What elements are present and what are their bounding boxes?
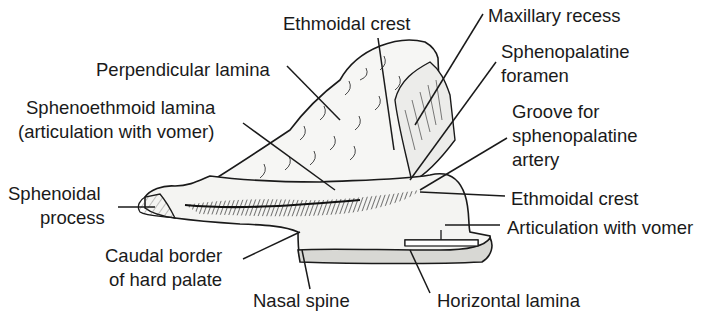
label-nasal-spine: Nasal spine [253,289,350,312]
label-articulation-with-vomer: Articulation with vomer [507,216,693,239]
label-horizontal-lamina: Horizontal lamina [437,289,580,312]
label-perpendicular-lamina: Perpendicular lamina [96,58,270,81]
label-caudal-border-2: of hard palate [109,268,222,291]
label-sphenoidal-process-1: Sphenoidal [8,182,101,205]
label-sphenopalatine-foramen-2: foramen [501,64,569,87]
label-sphenoidal-process-2: process [40,206,105,229]
label-sphenoethmoid-lamina-1: Sphenoethmoid lamina [26,96,215,119]
label-sphenopalatine-foramen-1: Sphenopalatine [501,40,630,63]
label-ethmoidal-crest-lower: Ethmoidal crest [511,187,639,210]
label-maxillary-recess: Maxillary recess [488,4,621,27]
label-sphenoethmoid-lamina-2: (articulation with vomer) [18,120,214,143]
label-groove-1: Groove for [512,100,599,123]
label-caudal-border-1: Caudal border [105,244,222,267]
label-groove-3: artery [512,148,559,171]
label-ethmoidal-crest-top: Ethmoidal crest [283,12,411,35]
label-groove-2: sphenopalatine [512,124,638,147]
anatomy-figure: Ethmoidal crest Maxillary recess Perpend… [0,0,722,327]
